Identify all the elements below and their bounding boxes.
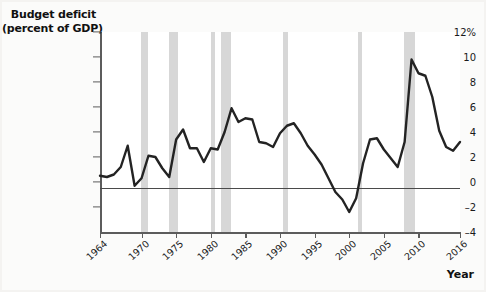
x-axis-tick-label: 1995 — [297, 238, 324, 264]
x-axis-tick-label: 2010 — [401, 238, 428, 264]
x-axis-tick-mark — [315, 232, 316, 238]
chart-title-line-1: Budget deficit — [2, 8, 96, 22]
x-axis-tick-label: 2016 — [443, 238, 470, 264]
chart-title-line-2: (percent of GDP) — [2, 22, 96, 36]
x-axis-tick-label: 1985 — [228, 238, 255, 264]
x-axis-tick-label: 1970 — [124, 238, 151, 264]
x-axis-tick-mark — [384, 232, 385, 238]
x-axis-tick-label: 1990 — [263, 238, 290, 264]
x-axis-tick-label: 1980 — [193, 238, 220, 264]
x-axis-tick-label: 1964 — [83, 238, 110, 264]
x-axis-title: Year — [447, 268, 474, 281]
data-series-layer — [100, 32, 460, 232]
x-axis-tick-label: 2005 — [367, 238, 394, 264]
x-axis-tick-label: 2000 — [332, 238, 359, 264]
x-axis-tick-mark — [142, 232, 143, 238]
x-axis-tick-mark — [211, 232, 212, 238]
chart-figure: Budget deficit (percent of GDP) 12%10864… — [0, 0, 486, 292]
x-axis-tick-label: 1975 — [159, 238, 186, 264]
budget-deficit-line — [100, 60, 460, 213]
chart-title: Budget deficit (percent of GDP) — [2, 8, 96, 36]
